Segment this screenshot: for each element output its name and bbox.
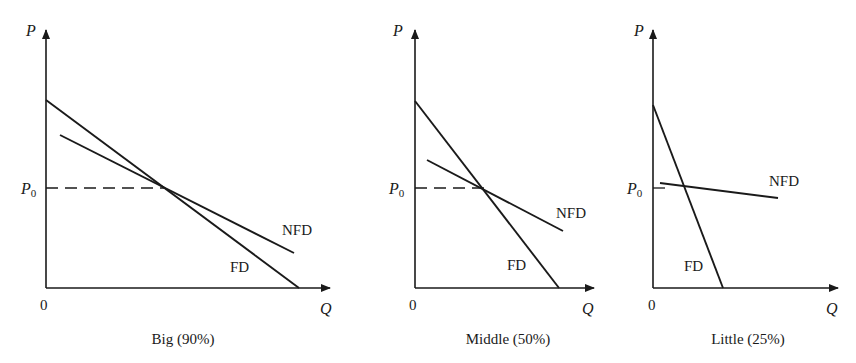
y-axis-label: P: [25, 22, 36, 39]
y-axis-label: P: [392, 22, 403, 39]
origin-label: 0: [648, 297, 656, 313]
panel-little: P Q 0 P0 FD NFD Little (25%): [626, 22, 838, 348]
nfd-curve: [660, 183, 778, 198]
x-axis-label: Q: [320, 300, 332, 317]
fd-label: FD: [684, 258, 703, 274]
y-axis-label: P: [633, 22, 644, 39]
nfd-label: NFD: [282, 222, 312, 238]
panel-caption: Middle (50%): [466, 331, 551, 348]
origin-label: 0: [40, 297, 48, 313]
p0-label: P0: [626, 180, 643, 199]
fd-label: FD: [230, 259, 249, 275]
panel-caption: Little (25%): [711, 331, 785, 348]
x-axis-label: Q: [582, 300, 594, 317]
origin-label: 0: [409, 297, 417, 313]
p0-label: P0: [20, 180, 37, 199]
nfd-label: NFD: [556, 205, 586, 221]
panel-big: P Q 0 P0 FD NFD Big (90%): [20, 22, 332, 348]
nfd-label: NFD: [769, 173, 799, 189]
panel-caption: Big (90%): [152, 331, 215, 348]
nfd-curve: [60, 135, 294, 253]
fd-curve: [46, 100, 299, 288]
nfd-curve: [427, 160, 563, 231]
fd-label: FD: [507, 257, 526, 273]
figure-canvas: P Q 0 P0 FD NFD Big (90%) P Q 0 P0 FD NF…: [0, 0, 856, 363]
p0-label: P0: [388, 180, 405, 199]
x-axis-label: Q: [826, 300, 838, 317]
panel-middle: P Q 0 P0 FD NFD Middle (50%): [388, 22, 594, 348]
fd-curve: [415, 101, 559, 288]
